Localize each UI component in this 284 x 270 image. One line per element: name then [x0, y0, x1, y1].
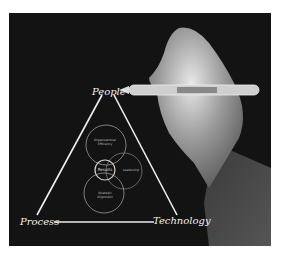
circle-label-top: Organizational Efficiency [87, 138, 123, 146]
label-process: Process [20, 216, 59, 227]
label-technology: Technology [153, 215, 211, 226]
circle-label-center: Results [95, 167, 115, 172]
label-people: People [92, 86, 126, 97]
photo-frame: People Process Technology Organizational… [9, 13, 271, 246]
circle-label-right: Leadership [121, 168, 141, 172]
circle-label-bottom: Strategic Alignment [91, 191, 119, 199]
diagram-drawing [9, 13, 271, 246]
